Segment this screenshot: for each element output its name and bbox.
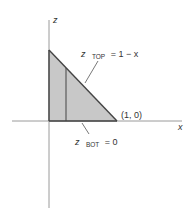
x-axis-label: x [177, 122, 183, 132]
point-label-1-0: (1, 0) [121, 110, 142, 120]
ztop-label: z TOP = 1 − x [80, 43, 139, 62]
zbot-label: z BOT = 0 [74, 131, 118, 150]
ztop-leader [85, 61, 98, 83]
diagram-canvas: z x z TOP = 1 − x z BOT = 0 (1, 0) [0, 0, 193, 218]
z-axis-label: z [52, 15, 58, 25]
